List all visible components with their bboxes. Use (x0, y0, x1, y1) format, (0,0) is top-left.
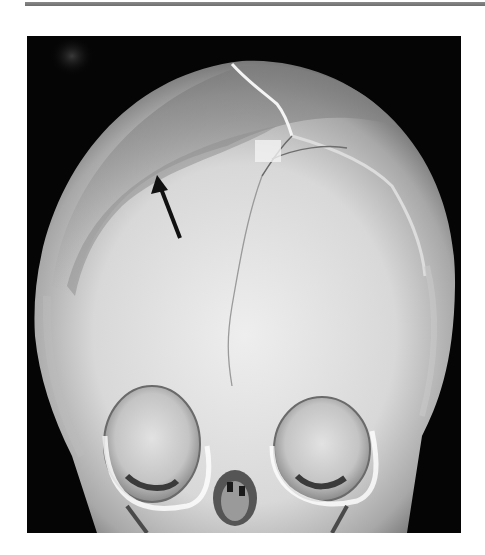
top-rule-divider (25, 2, 485, 6)
skull-ct-image (27, 36, 461, 533)
skull-rendering (27, 36, 461, 533)
